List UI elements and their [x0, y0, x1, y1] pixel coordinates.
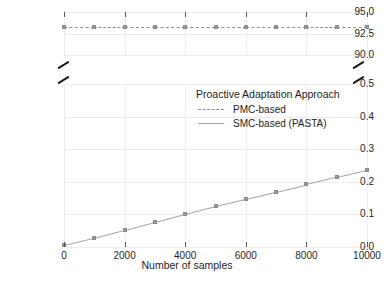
x-tick-mark — [64, 12, 65, 17]
data-point — [244, 197, 248, 201]
x-tick-mark — [64, 242, 65, 247]
x-tick-mark — [246, 242, 247, 247]
gridline-vertical — [125, 84, 126, 247]
y-tick-label: 0.2 — [316, 176, 374, 188]
data-point — [244, 25, 248, 29]
data-line-segment — [155, 27, 185, 28]
data-point — [304, 25, 308, 29]
x-tick-mark — [306, 12, 307, 17]
x-tick-mark — [367, 12, 368, 17]
y-tick-label: 0.4 — [316, 111, 374, 123]
data-line-segment — [94, 27, 124, 28]
data-point — [153, 25, 157, 29]
data-point — [214, 204, 218, 208]
gridline-vertical — [185, 84, 186, 247]
data-line-segment — [276, 27, 306, 28]
legend-label-smc: SMC-based (PASTA) — [233, 118, 327, 129]
gridline-vertical — [246, 12, 247, 55]
data-point — [274, 25, 278, 29]
x-tick-mark — [367, 242, 368, 247]
data-point — [183, 25, 187, 29]
axis-break-mark — [352, 61, 364, 70]
y-tick-label: 0.1 — [316, 208, 374, 220]
y-tick-label: 90.0 — [316, 49, 374, 61]
x-tick-label: 10000 — [337, 250, 386, 261]
data-point — [123, 228, 127, 232]
data-point — [153, 220, 157, 224]
data-line-segment — [94, 230, 125, 239]
legend-key-solid-icon — [196, 118, 226, 129]
x-tick-label: 0 — [34, 250, 94, 261]
data-line-segment — [64, 238, 95, 246]
gridline-vertical — [64, 12, 65, 55]
data-point — [304, 182, 308, 186]
data-point — [123, 25, 127, 29]
data-point — [62, 25, 66, 29]
data-line-segment — [64, 27, 94, 28]
y-tick-label: 92.5 — [316, 28, 374, 40]
x-tick-label: 2000 — [95, 250, 155, 261]
data-line-segment — [246, 192, 277, 200]
data-point — [183, 212, 187, 216]
x-tick-mark — [125, 242, 126, 247]
gridline-vertical — [185, 12, 186, 55]
gridline-vertical — [125, 12, 126, 55]
data-line-segment — [125, 27, 155, 28]
gridline-vertical — [306, 12, 307, 55]
x-tick-mark — [246, 12, 247, 17]
figure-caption — [0, 274, 374, 283]
data-line-segment — [216, 199, 247, 207]
data-point — [274, 190, 278, 194]
legend: Proactive Adaptation Approach PMC-based … — [196, 88, 356, 130]
data-point — [92, 236, 96, 240]
gridline-vertical — [64, 84, 65, 247]
gridline-vertical — [367, 84, 368, 247]
data-line-segment — [185, 27, 215, 28]
y-tick-label: 95.0 — [316, 6, 374, 18]
data-point — [92, 25, 96, 29]
x-tick-mark — [306, 242, 307, 247]
data-line-segment — [246, 27, 276, 28]
data-point — [365, 168, 369, 172]
data-line-segment — [125, 222, 156, 231]
x-tick-mark — [125, 12, 126, 17]
y-tick-label: 0.3 — [316, 143, 374, 155]
axis-break-mark — [57, 61, 69, 70]
legend-key-dashed-icon — [196, 104, 226, 115]
x-tick-label: 4000 — [155, 250, 215, 261]
data-line-segment — [185, 206, 216, 215]
axis-break-mark — [57, 76, 69, 85]
x-tick-mark — [185, 242, 186, 247]
data-line-segment — [216, 27, 246, 28]
data-line-segment — [276, 184, 307, 192]
x-tick-label: 6000 — [216, 250, 276, 261]
data-point — [214, 25, 218, 29]
legend-label-pmc: PMC-based — [233, 104, 286, 115]
x-tick-mark — [185, 12, 186, 17]
y-tick-label: 0.5 — [316, 78, 374, 90]
x-tick-label: 8000 — [276, 250, 336, 261]
